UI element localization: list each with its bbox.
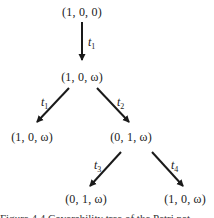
edge-label-t2: t2 [117, 96, 124, 108]
edge-label-subscript: 2 [120, 102, 124, 111]
edge-label-subscript: 3 [97, 165, 101, 174]
node-n2: (1, 0, ω) [11, 130, 53, 144]
node-n5: (1, 0, ω) [164, 192, 206, 206]
edge-label-subscript: 1 [91, 42, 95, 51]
tree-edges [0, 0, 214, 218]
node-n1: (1, 0, ω) [61, 70, 103, 84]
edge-label-t1-left: t1 [41, 96, 48, 108]
edge-n3-to-n5 [152, 152, 183, 186]
edge-label-subscript: 4 [174, 165, 178, 174]
node-n3: (0, 1, ω) [110, 130, 152, 144]
node-root: (1, 0, 0) [62, 5, 102, 19]
node-n4: (0, 1, ω) [65, 192, 107, 206]
edge-label-t1-root: t1 [88, 36, 95, 48]
edge-label-subscript: 1 [44, 102, 48, 111]
edge-label-t3: t3 [94, 159, 101, 171]
figure-caption: Figure 4.4 Coverability tree of the Petr… [0, 212, 214, 218]
edge-label-t4: t4 [171, 159, 178, 171]
